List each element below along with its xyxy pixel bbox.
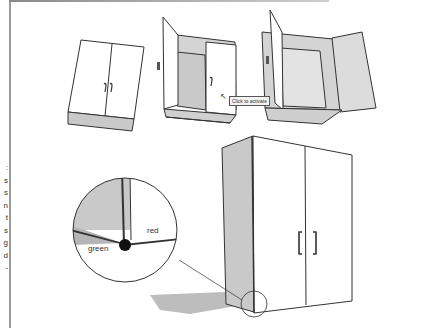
illustration xyxy=(0,0,433,328)
cabinet-closed-small xyxy=(68,40,144,131)
door-handle-icon xyxy=(266,56,269,64)
axis-label-red: red xyxy=(147,226,159,235)
cabinet-one-door-open xyxy=(157,17,236,123)
magnifier-callout xyxy=(70,170,180,282)
pointer-cursor-icon: ↖ xyxy=(220,92,227,101)
tooltip: Click to activate xyxy=(229,96,270,106)
origin-point-icon xyxy=(119,239,131,251)
floor-shadow xyxy=(150,292,236,314)
cabinet-both-doors-open xyxy=(262,10,376,124)
axis-label-green: green xyxy=(88,244,108,253)
cabinet-large xyxy=(150,136,352,317)
door-handle-icon xyxy=(157,62,160,70)
